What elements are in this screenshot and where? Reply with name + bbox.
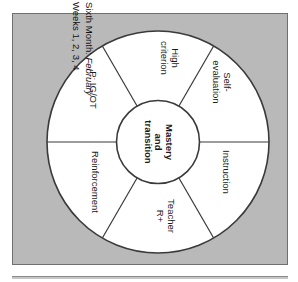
figure-root: Sixth Month: February Weeks 1, 2, 3, 4 M…: [0, 0, 298, 282]
side-caption-line-2: Weeks 1, 2, 3, 4: [69, 2, 82, 152]
side-caption-line-1: Sixth Month: February: [82, 2, 95, 152]
side-caption: Sixth Month: February Weeks 1, 2, 3, 4: [61, 2, 95, 152]
wheel-graphic: [0, 0, 298, 282]
side-caption-month: February: [84, 57, 95, 95]
side-caption-prefix: Sixth Month:: [84, 2, 95, 57]
hub-circle: [117, 101, 200, 184]
